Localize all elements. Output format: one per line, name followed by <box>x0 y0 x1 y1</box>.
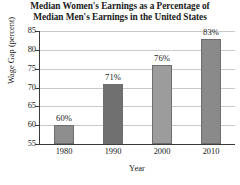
chart-title-line-2: Median Men's Earnings in the United Stat… <box>0 12 240 23</box>
x-axis-label: Year <box>39 163 235 173</box>
y-axis-tick-label: 75 <box>14 65 36 73</box>
x-axis-tick-label: 1980 <box>44 147 84 156</box>
bar-value-label: 71% <box>93 73 133 82</box>
y-axis-tick-label: 85 <box>14 27 36 35</box>
bar-value-label: 83% <box>191 28 231 37</box>
bar <box>152 65 172 144</box>
y-axis-tick-labels: 85807570656055 <box>12 31 36 144</box>
y-axis-tick <box>35 125 40 126</box>
x-axis-line <box>35 144 235 145</box>
y-axis-tick <box>35 69 40 70</box>
chart-figure: Median Women's Earnings as a Percentage … <box>0 0 240 185</box>
plot-area: 60%71%76%83% <box>39 31 235 144</box>
chart-title-line-1: Median Women's Earnings as a Percentage … <box>0 1 240 12</box>
bar-value-label: 76% <box>142 54 182 63</box>
y-axis-tick <box>35 88 40 89</box>
bar <box>54 125 74 144</box>
x-axis-tick-labels: 1980199020002010 <box>39 147 235 159</box>
y-axis-tick-label: 80 <box>14 46 36 54</box>
bar-value-label: 60% <box>44 114 84 123</box>
y-axis-tick-label: 60 <box>14 121 36 129</box>
y-axis-tick-label: 70 <box>14 84 36 92</box>
x-axis-tick-label: 2000 <box>142 147 182 156</box>
x-axis-tick-label: 2010 <box>191 147 231 156</box>
chart-title: Median Women's Earnings as a Percentage … <box>0 1 240 23</box>
x-axis-tick-label: 1990 <box>93 147 133 156</box>
y-axis-tick <box>35 106 40 107</box>
y-axis-tick <box>35 50 40 51</box>
bar <box>103 84 123 144</box>
y-axis-tick <box>35 31 40 32</box>
y-axis-tick-label: 65 <box>14 102 36 110</box>
bar <box>201 39 221 144</box>
y-axis-tick-label: 55 <box>14 140 36 148</box>
